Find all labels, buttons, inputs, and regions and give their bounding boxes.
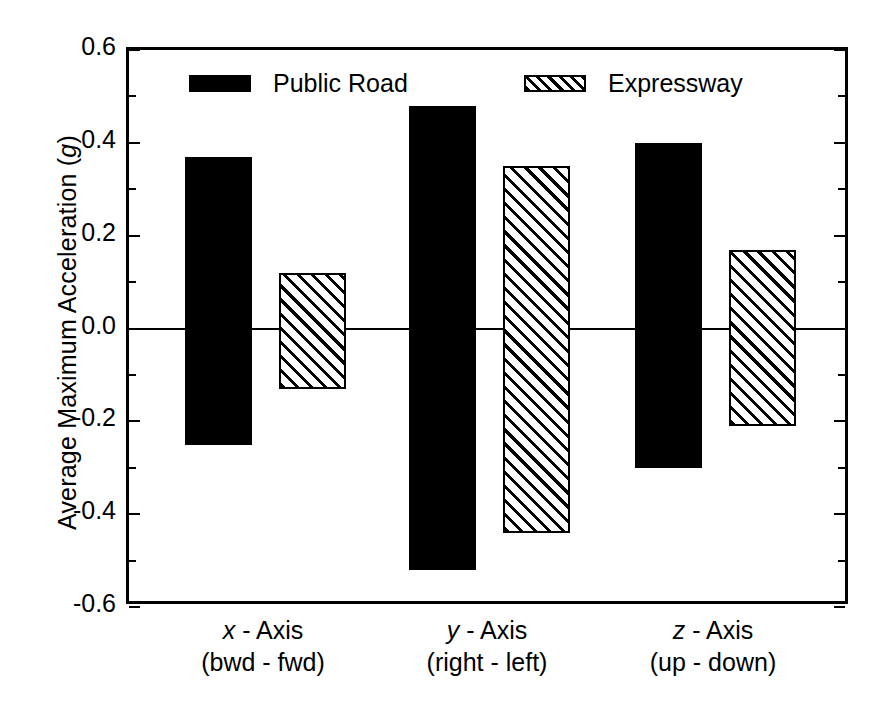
y-tick-minor <box>838 374 845 376</box>
plot-inner: Public RoadExpressway <box>129 50 845 601</box>
x-category-label-y: y - Axis(right - left) <box>357 614 617 678</box>
y-tick-major-right <box>834 513 845 515</box>
legend-label: Public Road <box>273 69 408 98</box>
x-category-line1: x - Axis <box>133 614 393 646</box>
bar-public-road-z <box>635 143 702 468</box>
y-tick-label: 0.2 <box>44 220 116 245</box>
y-tick-minor <box>129 560 136 562</box>
y-tick-major <box>129 420 140 422</box>
y-tick-major <box>129 606 140 608</box>
hatched-swatch <box>524 75 586 92</box>
x-category-line1: z - Axis <box>583 614 843 646</box>
bar-public-road-y <box>409 106 476 570</box>
bar-public-road-x <box>185 157 252 445</box>
y-tick-label: 0.0 <box>44 313 116 338</box>
y-tick-major-right <box>834 235 845 237</box>
y-tick-major <box>129 49 140 51</box>
y-tick-major <box>129 235 140 237</box>
y-tick-major-right <box>834 420 845 422</box>
y-tick-minor <box>838 560 845 562</box>
y-tick-minor <box>129 281 136 283</box>
y-tick-label: 0.6 <box>44 34 116 59</box>
y-tick-major-right <box>834 49 845 51</box>
x-category-label-x: x - Axis(bwd - fwd) <box>133 614 393 678</box>
x-category-line2: (bwd - fwd) <box>133 646 393 678</box>
y-tick-minor <box>129 374 136 376</box>
y-tick-label: -0.2 <box>44 405 116 430</box>
y-tick-minor <box>838 281 845 283</box>
y-tick-major <box>129 513 140 515</box>
bar-expressway-z <box>729 250 796 426</box>
legend-item-expressway[interactable]: Expressway <box>524 69 743 98</box>
y-tick-major-right <box>834 606 845 608</box>
x-category-line2: (up - down) <box>583 646 843 678</box>
x-category-line1: y - Axis <box>357 614 617 646</box>
y-tick-minor <box>838 95 845 97</box>
plot-area: Public RoadExpressway <box>126 47 848 604</box>
bar-expressway-y <box>503 166 570 533</box>
y-tick-major-right <box>834 142 845 144</box>
legend-item-public-road[interactable]: Public Road <box>189 69 408 98</box>
chart-figure: Average Maximum Acceleration (g) 0.60.40… <box>0 0 876 704</box>
solid-black-swatch <box>189 75 251 92</box>
x-category-line2: (right - left) <box>357 646 617 678</box>
y-tick-minor <box>838 467 845 469</box>
y-tick-label-column: 0.60.40.20.0-0.2-0.4-0.6 <box>30 0 116 704</box>
y-tick-major <box>129 142 140 144</box>
legend-label: Expressway <box>608 69 743 98</box>
y-tick-minor <box>838 188 845 190</box>
y-tick-label: -0.4 <box>44 498 116 523</box>
y-tick-label: -0.6 <box>44 591 116 616</box>
bar-expressway-x <box>279 273 346 389</box>
y-tick-minor <box>129 95 136 97</box>
y-tick-label: 0.4 <box>44 127 116 152</box>
x-category-italic-letter: z <box>673 616 686 644</box>
x-category-italic-letter: x <box>223 616 236 644</box>
y-tick-minor <box>129 188 136 190</box>
y-tick-minor <box>129 467 136 469</box>
x-category-label-z: z - Axis(up - down) <box>583 614 843 678</box>
x-category-italic-letter: y <box>447 616 460 644</box>
